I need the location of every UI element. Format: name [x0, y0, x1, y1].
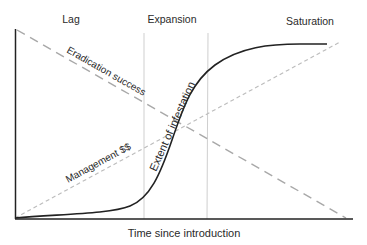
phase-label-expansion: Expansion: [147, 13, 196, 25]
x-axis-label: Time since introduction: [128, 227, 241, 239]
eradication-success-label: Eradication success: [65, 44, 148, 98]
extent-of-infestation-label: Extent of infestation: [147, 80, 197, 173]
phase-divider-expansion-saturation: [207, 33, 208, 219]
management-cost-line: [15, 42, 340, 218]
invasion-curve-diagram: Lag Expansion Saturation Eradication suc…: [0, 0, 367, 245]
phase-label-lag: Lag: [62, 13, 80, 25]
management-cost-label: Management $$: [64, 140, 133, 184]
phase-label-saturation: Saturation: [286, 15, 334, 27]
